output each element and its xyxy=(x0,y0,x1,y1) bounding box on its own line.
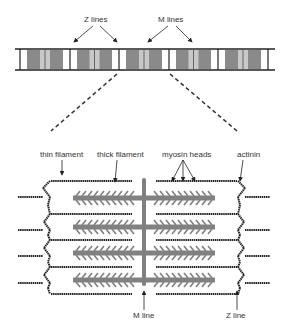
thin-filament-label: thin filament xyxy=(40,151,83,159)
myofibril-strip xyxy=(15,49,275,70)
m-line-label: M line xyxy=(133,312,154,320)
m-lines-label: M lines xyxy=(158,16,183,24)
zoom-indicator-lines xyxy=(51,74,237,131)
sarcomere-diagram xyxy=(0,0,287,333)
z-line-label: Z line xyxy=(226,312,246,320)
myosin-heads-label: myosin heads xyxy=(162,151,211,159)
thick-filament-label: thick filament xyxy=(97,151,144,159)
sarcomere-detail xyxy=(18,178,270,294)
m-lines-arrows xyxy=(148,26,192,42)
label-arrows xyxy=(62,160,243,310)
z-lines-arrows xyxy=(74,26,117,42)
z-lines-label: Z lines xyxy=(84,16,108,24)
actinin-label: actinin xyxy=(237,151,260,159)
